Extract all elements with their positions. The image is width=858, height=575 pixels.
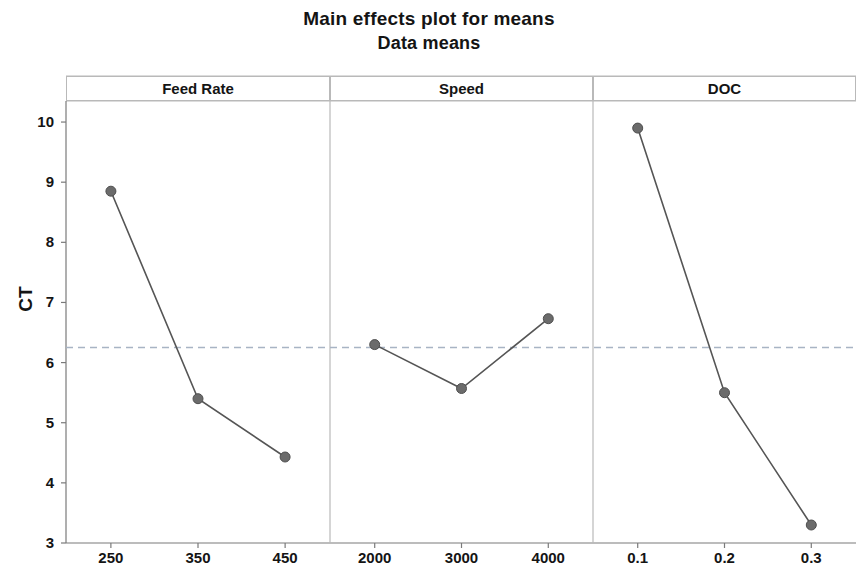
- data-point: [633, 123, 643, 133]
- data-point: [106, 186, 116, 196]
- series-line-feed-rate: [111, 191, 285, 457]
- data-point: [543, 314, 553, 324]
- data-point: [193, 394, 203, 404]
- plot-area: [0, 0, 858, 575]
- data-point: [806, 520, 816, 530]
- series-line-doc: [638, 128, 812, 525]
- data-point: [457, 384, 467, 394]
- series-line-speed: [375, 319, 549, 389]
- main-effects-chart: Main effects plot for means Data means C…: [0, 0, 858, 575]
- data-point: [720, 388, 730, 398]
- data-point: [370, 340, 380, 350]
- data-point: [280, 452, 290, 462]
